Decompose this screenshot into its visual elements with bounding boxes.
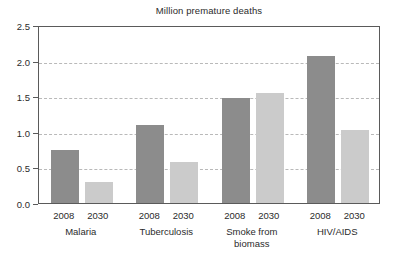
x-group-label-line: biomass	[226, 238, 277, 250]
x-series-label: 2030	[173, 210, 194, 221]
y-tick-label: 0.5	[17, 163, 30, 174]
x-series-label: 2030	[87, 210, 108, 221]
x-series-label: 2030	[258, 210, 279, 221]
y-tick-label: 1.0	[17, 127, 30, 138]
y-tick-label: 1.5	[17, 92, 30, 103]
x-group-label: HIV/AIDS	[317, 226, 358, 238]
x-group-label: Malaria	[65, 226, 96, 238]
x-series-label: 2008	[310, 210, 331, 221]
x-axis: 20082030Malaria20082030Tuberculosis20082…	[0, 204, 395, 264]
x-series-label: 2008	[224, 210, 245, 221]
bar	[85, 182, 113, 203]
bar	[170, 162, 198, 203]
x-series-label: 2008	[53, 210, 74, 221]
bar	[256, 93, 284, 203]
x-series-label: 2030	[344, 210, 365, 221]
chart-title: Million premature deaths	[38, 5, 380, 16]
y-tick-label: 2.5	[17, 21, 30, 32]
x-group-label: Tuberculosis	[139, 226, 193, 238]
x-series-label: 2008	[139, 210, 160, 221]
plot-area	[38, 26, 380, 204]
bar	[51, 150, 79, 203]
bar	[222, 98, 250, 203]
bar	[341, 130, 369, 203]
bar	[307, 56, 335, 203]
chart-figure: Million premature deaths 0.00.51.01.52.0…	[0, 0, 395, 264]
x-group-label: Smoke frombiomass	[226, 226, 277, 250]
y-tick-label: 2.0	[17, 56, 30, 67]
bar	[136, 125, 164, 203]
